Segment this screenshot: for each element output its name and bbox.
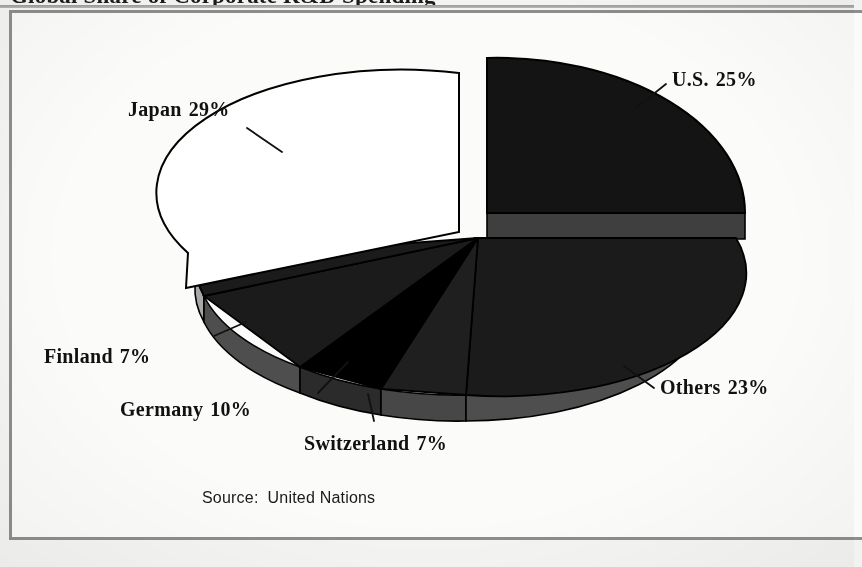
pie-label-us-pct: 25% xyxy=(716,68,757,90)
pie-label-finland: Finland7% xyxy=(44,345,150,368)
pie-label-germany-pct: 10% xyxy=(210,398,251,420)
pie-label-japan-pct: 29% xyxy=(189,98,230,120)
pie-label-japan: Japan29% xyxy=(128,98,230,121)
pie-label-switzerland-name: Switzerland xyxy=(304,432,410,454)
pie-label-us: U.S.25% xyxy=(672,68,757,91)
pie-slice-top-others xyxy=(466,238,746,396)
pie-label-germany-name: Germany xyxy=(120,398,203,420)
pie-label-us-name: U.S. xyxy=(672,68,709,90)
source-value: United Nations xyxy=(268,489,376,506)
pie-label-switzerland: Switzerland7% xyxy=(304,432,447,455)
source-label: Source: xyxy=(202,489,259,506)
pie-slice-side-us xyxy=(487,213,745,239)
pie-label-others: Others23% xyxy=(660,376,769,399)
pie-label-japan-name: Japan xyxy=(128,98,182,120)
pie-label-finland-name: Finland xyxy=(44,345,113,367)
pie-label-switzerland-pct: 7% xyxy=(417,432,448,454)
pie-label-others-name: Others xyxy=(660,376,721,398)
pie-label-others-pct: 23% xyxy=(728,376,769,398)
source-note: Source:United Nations xyxy=(202,489,375,507)
pie-label-germany: Germany10% xyxy=(120,398,251,421)
pie-label-finland-pct: 7% xyxy=(120,345,151,367)
